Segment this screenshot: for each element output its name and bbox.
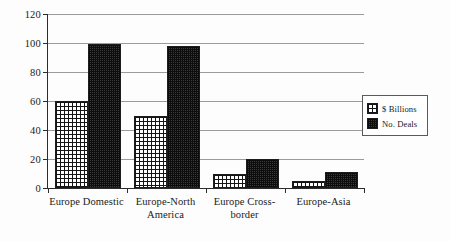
bar-0[interactable] [292,181,325,188]
x-axis-tick [364,188,365,193]
x-axis-tick [285,188,286,193]
bar-0[interactable] [134,116,167,189]
y-axis-label: 60 [30,96,41,107]
y-axis-label: 80 [30,67,41,78]
y-axis-label: 0 [36,183,41,194]
bar-group [285,14,364,188]
legend-item-series-1[interactable]: No. Deals [367,118,422,129]
bar-1[interactable] [325,172,358,188]
bar-group [206,14,285,188]
x-axis-category-label: Europe Cross- border [205,196,284,221]
x-axis-tick [127,188,128,193]
x-axis-tick [206,188,207,193]
bar-1[interactable] [246,159,279,188]
grouped-bar-chart: 020406080100120 $ Billions No. Deals Eur… [0,0,450,241]
bar-group [48,14,127,188]
bar-1[interactable] [167,46,200,188]
x-axis-category-label: Europe-Asia [284,196,363,209]
x-axis-category-label: Europe-North America [126,196,205,221]
bar-0[interactable] [55,101,88,188]
x-axis-category-label: Europe Domestic [47,196,126,209]
legend-item-series-0[interactable]: $ Billions [367,103,422,114]
legend-label-series-0: $ Billions [382,104,417,114]
y-axis-label: 120 [25,9,41,20]
y-axis-label: 20 [30,154,41,165]
bar-0[interactable] [213,174,246,189]
plot-area: 020406080100120 [47,14,364,189]
bar-1[interactable] [88,44,121,188]
bar-group [127,14,206,188]
y-axis-label: 40 [30,125,41,136]
chart-legend: $ Billions No. Deals [362,95,428,136]
dense-stipple-swatch-icon [367,118,378,129]
cross-hatch-swatch-icon [367,103,378,114]
x-axis-tick [48,188,49,193]
y-axis-label: 100 [25,38,41,49]
legend-label-series-1: No. Deals [382,119,417,129]
